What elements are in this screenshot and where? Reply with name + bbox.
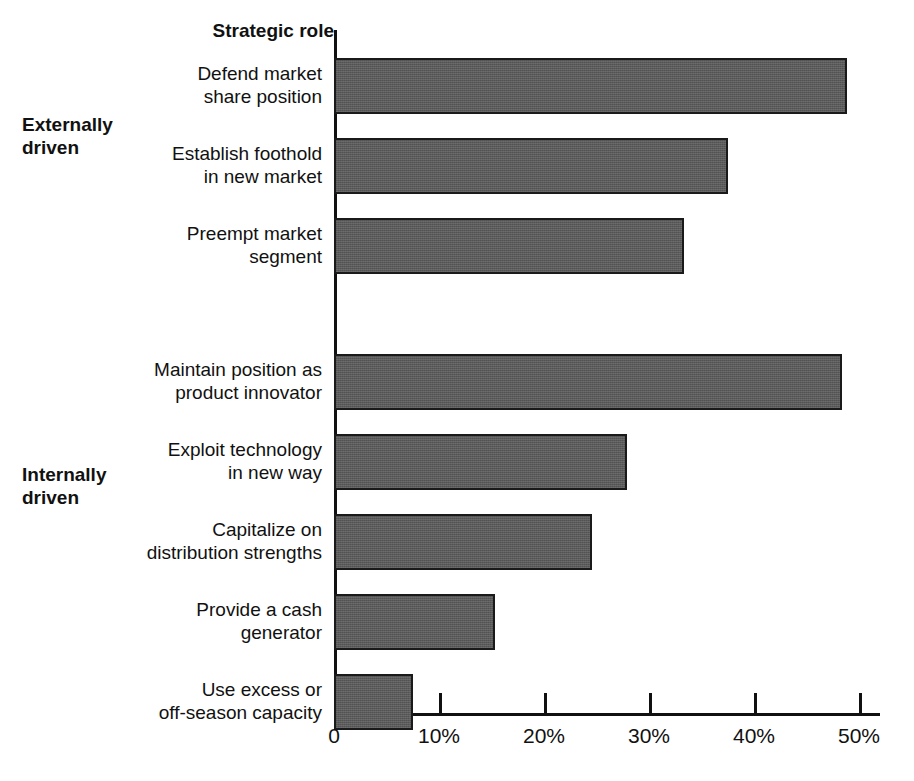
bar (334, 674, 413, 730)
bar-row (334, 218, 880, 274)
x-axis-tick-label: 30% (628, 724, 670, 748)
chart-axis-header: Strategic role (213, 20, 334, 42)
plot-area: 010%20%30%40%50% (334, 30, 880, 716)
x-axis-tick-label: 20% (523, 724, 565, 748)
x-axis-tick-label: 40% (733, 724, 775, 748)
category-label: Exploit technology in new way (22, 438, 322, 484)
x-axis-tick-label: 0 (328, 724, 340, 748)
x-axis-tick (754, 693, 757, 714)
bar-row (334, 354, 880, 410)
bar (334, 354, 842, 410)
bar (334, 434, 627, 490)
bar (334, 594, 495, 650)
bar-row (334, 138, 880, 194)
bar (334, 218, 684, 274)
bar-row (334, 514, 880, 570)
category-label: Maintain position as product innovator (22, 358, 322, 404)
category-label: Capitalize on distribution strengths (22, 518, 322, 564)
bar-row (334, 594, 880, 650)
x-axis-tick (544, 693, 547, 714)
x-axis-tick-label: 10% (418, 724, 460, 748)
x-axis-tick (439, 693, 442, 714)
x-axis-tick (859, 693, 862, 714)
category-label: Provide a cash generator (22, 598, 322, 644)
x-axis-tick (649, 693, 652, 714)
category-label: Use excess or off-season capacity (22, 678, 322, 724)
category-label: Defend market share position (22, 62, 322, 108)
bar (334, 514, 592, 570)
bar (334, 58, 847, 114)
bar-row (334, 58, 880, 114)
category-label: Preempt market segment (22, 222, 322, 268)
bar-row (334, 674, 880, 730)
bar-row (334, 434, 880, 490)
bar-chart: Externally driven Internally driven Stra… (0, 0, 914, 781)
category-label: Establish foothold in new market (22, 142, 322, 188)
x-axis-tick-label: 50% (838, 724, 880, 748)
bar (334, 138, 728, 194)
